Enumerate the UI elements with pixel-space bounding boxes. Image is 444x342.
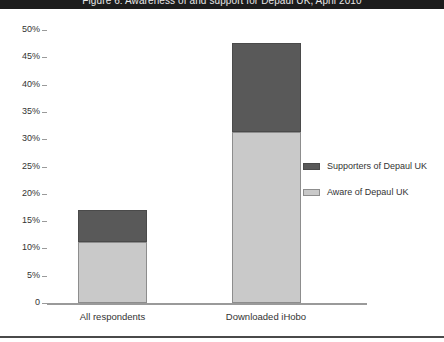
y-axis-tick <box>42 85 47 86</box>
y-axis-tick-label: 45% <box>4 52 40 61</box>
y-axis-tick <box>42 276 47 277</box>
y-axis-tick <box>42 194 47 195</box>
figure-title-bar: Figure 6: Awareness of and support for D… <box>0 0 444 9</box>
legend-item-label: Aware of Depaul UK <box>327 186 408 198</box>
bar-segment-supporters[interactable] <box>78 210 147 242</box>
bar-all-respondents[interactable] <box>78 210 147 303</box>
y-axis-tick <box>42 30 47 31</box>
y-axis-tick-label: 25% <box>4 162 40 171</box>
y-axis-tick-label: 15% <box>4 216 40 225</box>
legend-swatch-icon <box>303 163 320 170</box>
y-axis-tick-label: 5% <box>4 271 40 280</box>
y-axis-tick-label: 30% <box>4 134 40 143</box>
legend-item-label: Supporters of Depaul UK <box>327 160 427 172</box>
y-axis-tick-label: 35% <box>4 107 40 116</box>
x-axis-line <box>47 303 367 305</box>
y-axis-tick-label: 10% <box>4 243 40 252</box>
page-title: Figure 6: Awareness of and support for D… <box>0 0 444 6</box>
bar-downloaded-ihobo[interactable] <box>232 43 301 303</box>
y-axis-tick-label: 0 <box>4 298 40 307</box>
y-axis-tick <box>42 112 47 113</box>
y-axis-tick <box>42 57 47 58</box>
bar-segment-aware[interactable] <box>78 242 147 303</box>
legend-swatch-icon <box>303 189 320 196</box>
y-axis-tick-label: 20% <box>4 189 40 198</box>
chart-figure: Figure 6: Awareness of and support for D… <box>0 0 444 342</box>
bar-segment-supporters[interactable] <box>232 43 301 131</box>
y-axis-labels: 50%45%40%35%30%25%20%15%10%5%0 <box>0 0 40 342</box>
y-axis-tick-label: 40% <box>4 80 40 89</box>
y-axis-tick <box>42 221 47 222</box>
y-axis-tick-label: 50% <box>4 25 40 34</box>
bottom-spacer <box>0 338 444 342</box>
y-axis-tick <box>42 167 47 168</box>
x-axis-tick-label: Downloaded iHobo <box>186 311 346 322</box>
x-axis-tick-label: All respondents <box>33 311 193 322</box>
bar-segment-aware[interactable] <box>232 132 301 303</box>
y-axis-tick <box>42 248 47 249</box>
y-axis-tick <box>42 303 47 304</box>
y-axis-tick <box>42 139 47 140</box>
